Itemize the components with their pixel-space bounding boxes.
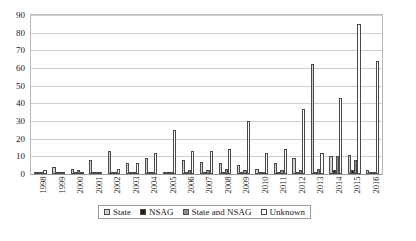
x-axis-tick: 2016	[363, 176, 381, 202]
gridline	[31, 174, 382, 175]
bar-unknown	[339, 98, 342, 174]
bar-unknown	[265, 153, 268, 174]
x-axis-tick: 2006	[179, 176, 197, 202]
year-bar-group	[253, 15, 271, 174]
x-axis-tick-label: 2009	[242, 177, 251, 194]
x-axis-tick: 1998	[31, 176, 49, 202]
x-axis-tick-label: 2015	[353, 177, 362, 194]
x-axis-tick: 1999	[49, 176, 67, 202]
year-bar-group	[271, 15, 289, 174]
x-axis-tick-label: 2016	[372, 177, 381, 194]
legend-item-unknown[interactable]: Unknown	[261, 207, 306, 217]
bar-unknown	[62, 172, 65, 174]
y-axis-tick-label: 70	[16, 46, 25, 55]
bar-chart: 0102030405060708090 19981999200020012002…	[0, 0, 416, 241]
bar-unknown	[191, 151, 194, 174]
legend-label: Unknown	[270, 207, 306, 217]
x-axis-tick: 2003	[123, 176, 141, 202]
x-axis-tick-label: 2008	[224, 177, 233, 194]
x-axis-tick: 2011	[271, 176, 289, 202]
year-bar-group	[105, 15, 123, 174]
x-axis-tick-label: 2014	[335, 177, 344, 194]
year-bar-group	[86, 15, 104, 174]
x-axis-tick-label: 2007	[205, 177, 214, 194]
bar-state	[108, 151, 111, 174]
year-bar-group	[363, 15, 381, 174]
legend-swatch-icon	[104, 209, 110, 215]
x-axis-tick: 2014	[327, 176, 345, 202]
legend-swatch-icon	[261, 209, 267, 215]
legend-swatch-icon	[140, 209, 146, 215]
x-axis-tick-label: 2010	[261, 177, 270, 194]
legend-label: NSAG	[149, 207, 174, 217]
y-axis-tick-label: 20	[16, 134, 25, 143]
y-axis-tick-label: 10	[16, 152, 25, 161]
bar-unknown	[210, 151, 213, 174]
x-axis-tick: 2010	[253, 176, 271, 202]
x-axis-tick-label: 2005	[169, 177, 178, 194]
legend-swatch-icon	[183, 209, 189, 215]
bar-unknown	[284, 149, 287, 174]
legend-item-state[interactable]: State	[104, 207, 131, 217]
y-axis-tick-label: 50	[16, 81, 25, 90]
x-axis-tick: 2015	[345, 176, 363, 202]
year-bar-group	[68, 15, 86, 174]
x-axis-tick-label: 2012	[298, 177, 307, 194]
bar-unknown	[228, 149, 231, 174]
x-axis-tick-label: 2000	[76, 177, 85, 194]
x-axis-tick-label: 2002	[113, 177, 122, 194]
y-axis-tick-label: 40	[16, 99, 25, 108]
bar-unknown	[80, 172, 83, 174]
x-axis-tick: 2008	[216, 176, 234, 202]
bar-unknown	[43, 170, 46, 174]
y-axis: 0102030405060708090	[0, 14, 28, 175]
bar-unknown	[376, 61, 379, 174]
year-bar-group	[216, 15, 234, 174]
x-axis-tick: 2013	[308, 176, 326, 202]
year-bar-group	[179, 15, 197, 174]
y-axis-tick-label: 90	[16, 11, 25, 20]
bars-layer	[31, 15, 382, 174]
x-axis-tick-label: 2006	[187, 177, 196, 194]
y-axis-tick-label: 60	[16, 64, 25, 73]
year-bar-group	[327, 15, 345, 174]
x-axis-tick-label: 1998	[39, 177, 48, 194]
y-axis-tick-label: 0	[21, 170, 26, 179]
year-bar-group	[123, 15, 141, 174]
x-axis-tick-label: 1999	[58, 177, 67, 194]
x-axis-tick-label: 2011	[279, 177, 288, 194]
x-axis-tick: 2004	[142, 176, 160, 202]
x-axis-tick: 2007	[197, 176, 215, 202]
y-axis-tick-label: 80	[16, 28, 25, 37]
y-axis-tick-label: 30	[16, 117, 25, 126]
bar-unknown	[320, 153, 323, 174]
year-bar-group	[49, 15, 67, 174]
x-axis: 1998199920002001200220032004200520062007…	[31, 176, 382, 202]
x-axis-tick: 2001	[86, 176, 104, 202]
x-axis-tick: 2005	[160, 176, 178, 202]
bar-unknown	[357, 24, 360, 174]
bar-unknown	[117, 169, 120, 174]
legend-label: State and NSAG	[192, 207, 252, 217]
x-axis-tick-label: 2004	[150, 177, 159, 194]
x-axis-tick: 2000	[68, 176, 86, 202]
x-axis-tick: 2012	[290, 176, 308, 202]
year-bar-group	[160, 15, 178, 174]
x-axis-tick: 2002	[105, 176, 123, 202]
legend-item-nsag[interactable]: NSAG	[140, 207, 174, 217]
bar-unknown	[99, 172, 102, 174]
year-bar-group	[345, 15, 363, 174]
year-bar-group	[197, 15, 215, 174]
year-bar-group	[142, 15, 160, 174]
bar-unknown	[247, 121, 250, 174]
x-axis-tick-label: 2001	[95, 177, 104, 194]
legend-item-state-and-nsag[interactable]: State and NSAG	[183, 207, 252, 217]
chart-legend: StateNSAGState and NSAGUnknown	[98, 205, 311, 219]
bar-unknown	[154, 153, 157, 174]
year-bar-group	[234, 15, 252, 174]
year-bar-group	[308, 15, 326, 174]
year-bar-group	[31, 15, 49, 174]
x-axis-tick-label: 2003	[132, 177, 141, 194]
bar-unknown	[173, 130, 176, 174]
bar-state	[311, 64, 314, 174]
